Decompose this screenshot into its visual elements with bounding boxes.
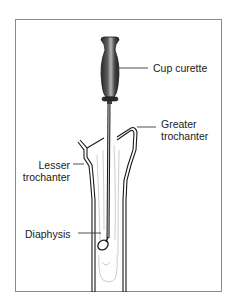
label-diaphysis: Diaphysis xyxy=(25,228,71,240)
label-greater-trochanter: Greater trochanter xyxy=(161,118,208,142)
greater-trochanter-outline xyxy=(117,128,137,293)
label-greater-trochanter-line1: Greater xyxy=(161,118,208,130)
label-cup-curette-text: Cup curette xyxy=(153,62,207,74)
curette-handle xyxy=(101,37,119,104)
label-greater-trochanter-line2: trochanter xyxy=(161,130,208,142)
curette-cup-tip xyxy=(96,237,110,252)
lesser-trochanter-outline xyxy=(78,142,92,292)
label-cup-curette: Cup curette xyxy=(153,62,207,74)
label-lesser-trochanter-line1: Lesser xyxy=(18,159,70,171)
label-lesser-trochanter: Lesser trochanter xyxy=(18,159,70,183)
curette-shaft xyxy=(108,104,109,238)
curette-femur-illustration xyxy=(0,0,231,299)
label-diaphysis-text: Diaphysis xyxy=(25,228,71,240)
label-lesser-trochanter-line2: trochanter xyxy=(18,171,70,183)
